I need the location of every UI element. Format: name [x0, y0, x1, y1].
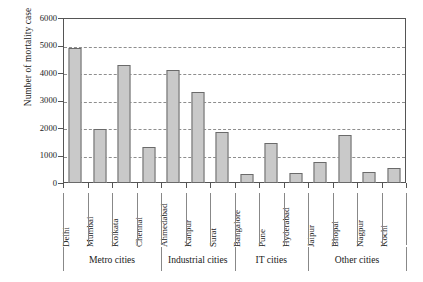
group-divider — [161, 247, 162, 271]
city-label-divider — [333, 193, 334, 245]
y-tick-label: 3000 — [17, 96, 57, 105]
city-label-kochi: Kochi — [382, 189, 407, 247]
bar[interactable] — [216, 132, 229, 183]
city-label-hyderabad: Hyderabad — [284, 189, 309, 247]
city-label-pune: Pune — [259, 189, 284, 247]
city-label-kanpur: Kanpur — [186, 189, 211, 247]
bar[interactable] — [265, 143, 278, 183]
city-label-divider — [235, 193, 236, 245]
x-tick-mark — [357, 183, 358, 188]
city-label-nagpur: Nagpur — [357, 189, 382, 247]
group-label-metro-cities: Metro cities — [63, 247, 161, 271]
city-label-delhi: Delhi — [63, 189, 88, 247]
x-axis-category-labels: DelhiMumbaiKolkataChennaiAhmedabadKanpur… — [63, 189, 406, 247]
city-label-mumbai: Mumbai — [88, 189, 113, 247]
bar-slot — [210, 18, 235, 183]
bar-slot — [186, 18, 211, 183]
bar[interactable] — [118, 65, 131, 183]
group-divider — [63, 247, 64, 271]
city-label-divider — [161, 193, 162, 245]
y-tick-label: 2000 — [17, 124, 57, 133]
bar[interactable] — [69, 48, 82, 183]
bar-slot — [382, 18, 407, 183]
y-tick-label: 4000 — [17, 69, 57, 78]
group-divider — [235, 247, 236, 271]
group-label-other-cities: Other cities — [308, 247, 406, 271]
bar-slot — [284, 18, 309, 183]
city-label-divider — [112, 193, 113, 245]
city-label-kolkata: Kolkata — [112, 189, 137, 247]
x-tick-mark — [63, 183, 64, 188]
y-tick-label: 1000 — [17, 151, 57, 160]
bar-slot — [259, 18, 284, 183]
x-tick-mark — [333, 183, 334, 188]
bar[interactable] — [93, 129, 106, 183]
city-label-divider — [88, 193, 89, 245]
x-tick-mark — [210, 183, 211, 188]
city-label-ahmedabad: Ahmedabad — [161, 189, 186, 247]
bar[interactable] — [191, 92, 204, 183]
x-axis-group-labels: Metro citiesIndustrial citiesIT citiesOt… — [63, 247, 406, 271]
city-label-divider — [259, 193, 260, 245]
city-label-surat: Surat — [210, 189, 235, 247]
x-tick-mark — [186, 183, 187, 188]
bar-slot — [112, 18, 137, 183]
city-label-divider — [382, 193, 383, 245]
bar-slot — [161, 18, 186, 183]
bar[interactable] — [314, 162, 327, 183]
x-tick-mark — [308, 183, 309, 188]
city-label-divider — [210, 193, 211, 245]
bar-slot — [308, 18, 333, 183]
city-label-divider — [137, 193, 138, 245]
x-tick-mark — [284, 183, 285, 188]
x-tick-mark — [137, 183, 138, 188]
x-tick-mark — [382, 183, 383, 188]
city-label-divider — [63, 193, 64, 245]
bar-slot — [357, 18, 382, 183]
y-tick-label: 0 — [17, 179, 57, 188]
group-label-it-cities: IT cities — [235, 247, 309, 271]
bar-slot — [333, 18, 358, 183]
city-label-divider — [406, 193, 407, 245]
city-label-bhopal: Bhopal — [333, 189, 358, 247]
bar[interactable] — [142, 147, 155, 183]
x-tick-mark — [235, 183, 236, 188]
x-tick-mark — [259, 183, 260, 188]
bar-slot — [88, 18, 113, 183]
city-label-divider — [357, 193, 358, 245]
bar-slot — [137, 18, 162, 183]
bars-layer — [63, 18, 406, 183]
city-label-jaipur: Jaipur — [308, 189, 333, 247]
city-label-chennai: Chennai — [137, 189, 162, 247]
bar[interactable] — [240, 174, 253, 183]
x-tick-mark — [406, 183, 407, 188]
bar-slot — [63, 18, 88, 183]
bar-slot — [235, 18, 260, 183]
x-tick-mark — [88, 183, 89, 188]
city-label-bangalore: Bangalore — [235, 189, 260, 247]
bar[interactable] — [338, 135, 351, 183]
bar-chart-figure: Number of mortality case 010002000300040… — [0, 0, 423, 282]
city-label-divider — [186, 193, 187, 245]
x-tick-mark — [161, 183, 162, 188]
city-label-divider — [308, 193, 309, 245]
group-divider — [406, 247, 407, 271]
group-label-industrial-cities: Industrial cities — [161, 247, 235, 271]
y-tick-label: 6000 — [17, 14, 57, 23]
bar[interactable] — [363, 172, 376, 183]
group-divider — [308, 247, 309, 271]
y-tick-label: 5000 — [17, 41, 57, 50]
bar[interactable] — [387, 168, 400, 183]
bar[interactable] — [289, 173, 302, 183]
city-label-divider — [284, 193, 285, 245]
bar[interactable] — [167, 70, 180, 183]
x-tick-mark — [112, 183, 113, 188]
